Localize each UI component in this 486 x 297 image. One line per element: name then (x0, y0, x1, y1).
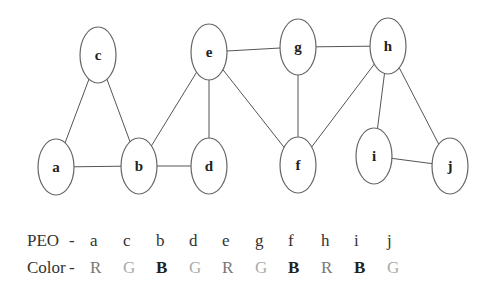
node-f: f (280, 137, 316, 193)
color-separator: - (69, 258, 75, 278)
color-item-g: G (255, 258, 267, 278)
node-a: a (38, 139, 74, 195)
svg-text:b: b (135, 158, 143, 174)
node-i: i (356, 128, 392, 184)
color-item-e: R (222, 258, 233, 278)
color-item-j: G (387, 258, 399, 278)
peo-item-h: h (321, 231, 330, 251)
color-item-a: R (90, 258, 101, 278)
node-c: c (80, 27, 116, 83)
svg-text:d: d (205, 158, 214, 174)
graph-nodes: abcdefghij (38, 18, 468, 195)
color-item-c: G (123, 258, 135, 278)
peo-label: PEO (27, 231, 59, 251)
peo-item-j: j (387, 231, 392, 251)
node-h: h (370, 18, 406, 74)
color-item-d: G (189, 258, 201, 278)
color-item-f: B (288, 258, 299, 278)
svg-text:a: a (52, 159, 60, 175)
node-j: j (432, 138, 468, 194)
peo-item-i: i (354, 231, 359, 251)
peo-item-f: f (288, 231, 294, 251)
node-e: e (191, 24, 227, 80)
peo-separator: - (69, 231, 75, 251)
peo-item-d: d (189, 231, 198, 251)
svg-text:j: j (447, 158, 453, 174)
peo-item-a: a (90, 231, 98, 251)
svg-text:e: e (206, 44, 213, 60)
color-item-h: R (321, 258, 332, 278)
node-d: d (191, 138, 227, 194)
node-b: b (121, 138, 157, 194)
svg-text:h: h (384, 38, 393, 54)
color-item-i: B (354, 258, 365, 278)
peo-item-b: b (156, 231, 165, 251)
svg-text:i: i (372, 148, 376, 164)
svg-text:g: g (294, 39, 302, 55)
peo-item-c: c (123, 231, 131, 251)
node-g: g (280, 19, 316, 75)
svg-text:c: c (95, 47, 102, 63)
color-item-b: B (156, 258, 167, 278)
color-label: Color (27, 258, 66, 278)
peo-item-g: g (255, 231, 264, 251)
graph-diagram: abcdefghij (0, 0, 486, 220)
peo-item-e: e (222, 231, 230, 251)
